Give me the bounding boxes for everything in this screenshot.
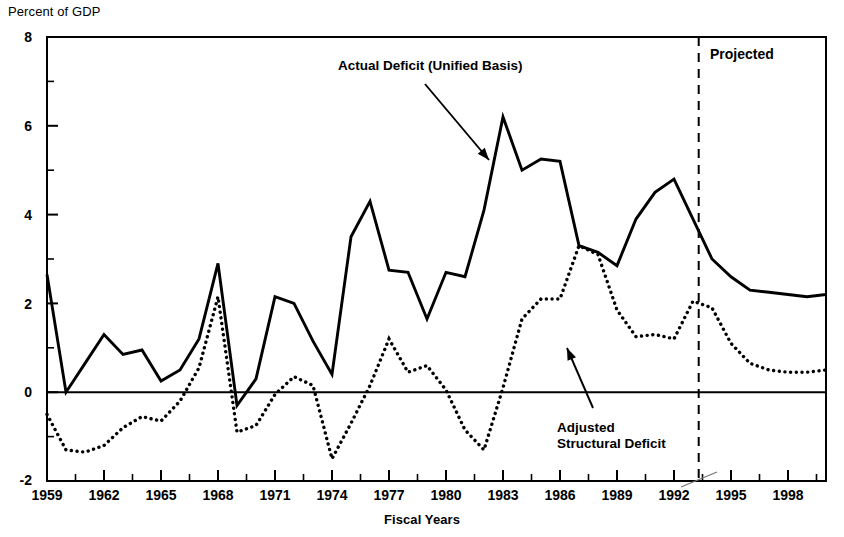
y-tick-8: 8 <box>4 29 32 45</box>
adjusted-structural-arrow-head <box>567 348 576 361</box>
adjusted-structural-annotation: Adjusted Structural Deficit <box>557 420 666 453</box>
x-tick-1959: 1959 <box>17 487 77 503</box>
series-adjusted-structural <box>47 246 826 459</box>
x-tick-1986: 1986 <box>530 487 590 503</box>
x-tick-1998: 1998 <box>758 487 818 503</box>
x-tick-1977: 1977 <box>359 487 419 503</box>
x-tick-1992: 1992 <box>644 487 704 503</box>
x-tick-1962: 1962 <box>74 487 134 503</box>
x-tick-1983: 1983 <box>473 487 533 503</box>
x-tick-1989: 1989 <box>587 487 647 503</box>
x-tick-1980: 1980 <box>416 487 476 503</box>
actual-deficit-annotation: Actual Deficit (Unified Basis) <box>338 58 523 74</box>
y-tick-4: 4 <box>4 207 32 223</box>
y-tick-2: 2 <box>4 296 32 312</box>
y-tick-6: 6 <box>4 118 32 134</box>
actual-deficit-arrow <box>425 84 489 160</box>
x-axis-title: Fiscal Years <box>0 512 844 527</box>
adjusted-structural-line2: Structural Deficit <box>557 436 666 452</box>
x-tick-1974: 1974 <box>302 487 362 503</box>
chart-container: Percent of GDP 8 6 4 2 0 -2 195919621965… <box>0 0 844 537</box>
y-tick-neg2: -2 <box>4 472 32 488</box>
x-tick-1995: 1995 <box>701 487 761 503</box>
adjusted-structural-line1: Adjusted <box>557 420 666 436</box>
x-tick-1971: 1971 <box>245 487 305 503</box>
plot-area <box>0 0 844 537</box>
series-actual-deficit <box>47 117 826 406</box>
plot-frame <box>47 37 826 481</box>
y-tick-0: 0 <box>4 384 32 400</box>
x-tick-1965: 1965 <box>131 487 191 503</box>
projected-annotation: Projected <box>710 46 774 63</box>
x-tick-1968: 1968 <box>188 487 248 503</box>
